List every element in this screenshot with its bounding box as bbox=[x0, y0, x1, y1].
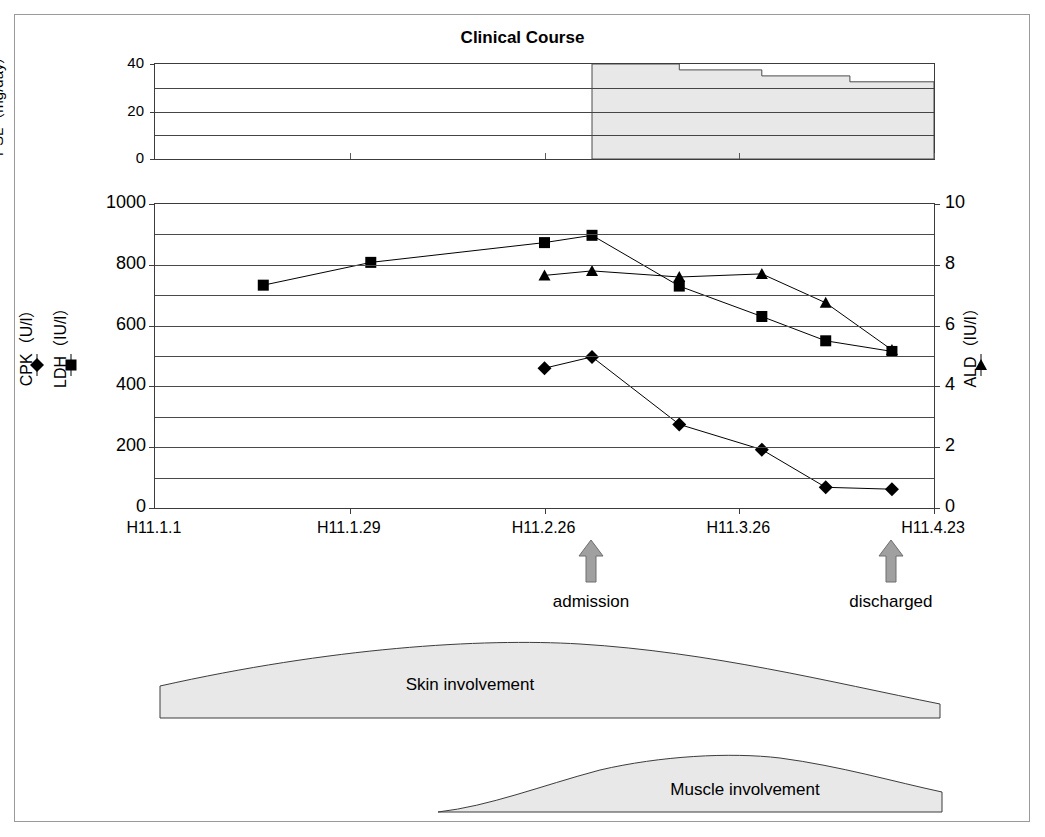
x-tick-label-2: H11.2.26 bbox=[484, 519, 604, 537]
x-axis-tick bbox=[739, 508, 740, 514]
series-square bbox=[258, 230, 898, 357]
up-arrow-icon-admission bbox=[578, 538, 604, 584]
left-axis-tick bbox=[149, 447, 155, 448]
psl-gridline bbox=[155, 112, 934, 113]
psl-tick-label-0: 0 bbox=[102, 149, 144, 166]
main-plot-area bbox=[154, 203, 935, 509]
psl-tick-label-20: 20 bbox=[102, 102, 144, 119]
main-gridline bbox=[155, 265, 934, 266]
left-tick-label-800: 800 bbox=[90, 253, 146, 274]
x-tick-label-4: H11.4.23 bbox=[873, 519, 993, 537]
series-diamond bbox=[538, 350, 899, 496]
psl-axis-tick bbox=[150, 64, 155, 65]
main-gridline bbox=[155, 295, 934, 296]
x-tick-label-3: H11.3.26 bbox=[678, 519, 798, 537]
x-axis-tick bbox=[350, 508, 351, 514]
main-gridline bbox=[155, 386, 934, 387]
psl-axis-title: PSL（mg/day） bbox=[0, 49, 7, 157]
left-tick-label-600: 600 bbox=[90, 314, 146, 335]
series-triangle bbox=[539, 265, 898, 355]
main-gridline bbox=[155, 447, 934, 448]
main-gridline bbox=[155, 356, 934, 357]
psl-x-tick bbox=[545, 153, 546, 159]
right-tick-label-8: 8 bbox=[945, 253, 985, 274]
right-tick-label-0: 0 bbox=[945, 496, 985, 517]
skin-involvement-shape bbox=[150, 640, 950, 730]
page-title: Clinical Course bbox=[0, 28, 1045, 48]
x-axis-tick bbox=[934, 508, 935, 514]
skin-involvement-label: Skin involvement bbox=[406, 675, 535, 695]
psl-x-tick bbox=[934, 153, 935, 159]
x-axis-tick bbox=[545, 508, 546, 514]
left-tick-label-1000: 1000 bbox=[90, 192, 146, 213]
right-axis-tick bbox=[934, 265, 940, 266]
muscle-involvement-label: Muscle involvement bbox=[670, 780, 819, 800]
left-axis-tick bbox=[149, 508, 155, 509]
x-tick-label-1: H11.1.29 bbox=[289, 519, 409, 537]
left-axis-tick bbox=[149, 326, 155, 327]
legend-label-cpk: CPK（U/l） bbox=[13, 302, 37, 386]
right-axis-tick bbox=[934, 386, 940, 387]
x-tick-label-0: H11.1.1 bbox=[94, 519, 214, 537]
left-tick-label-0: 0 bbox=[90, 496, 146, 517]
left-tick-label-400: 400 bbox=[90, 374, 146, 395]
clinical-course-figure: Clinical Course PSL（mg/day） CPK（U/l）LDH（… bbox=[0, 0, 1045, 837]
left-axis-tick bbox=[149, 204, 155, 205]
right-axis-tick bbox=[934, 447, 940, 448]
left-axis-tick bbox=[149, 265, 155, 266]
main-gridline bbox=[155, 417, 934, 418]
up-arrow-icon-discharged bbox=[878, 538, 904, 584]
psl-x-tick bbox=[739, 153, 740, 159]
psl-axis-tick bbox=[150, 159, 155, 160]
right-tick-label-10: 10 bbox=[945, 192, 985, 213]
left-tick-label-200: 200 bbox=[90, 435, 146, 456]
psl-plot-area bbox=[154, 63, 935, 160]
right-axis-tick bbox=[934, 326, 940, 327]
legend-label-ldh: LDH（IU/l） bbox=[47, 300, 71, 388]
right-tick-label-2: 2 bbox=[945, 435, 985, 456]
right-tick-label-4: 4 bbox=[945, 374, 985, 395]
psl-gridline bbox=[155, 135, 934, 136]
main-gridline bbox=[155, 234, 934, 235]
right-axis-tick bbox=[934, 204, 940, 205]
annotation-label-discharged: discharged bbox=[849, 592, 932, 612]
psl-gridline bbox=[155, 88, 934, 89]
psl-x-tick bbox=[350, 153, 351, 159]
main-gridline bbox=[155, 478, 934, 479]
annotation-label-admission: admission bbox=[553, 592, 630, 612]
psl-tick-label-40: 40 bbox=[102, 54, 144, 71]
psl-axis-tick bbox=[150, 112, 155, 113]
right-tick-label-6: 6 bbox=[945, 314, 985, 335]
main-gridline bbox=[155, 326, 934, 327]
left-axis-tick bbox=[149, 386, 155, 387]
